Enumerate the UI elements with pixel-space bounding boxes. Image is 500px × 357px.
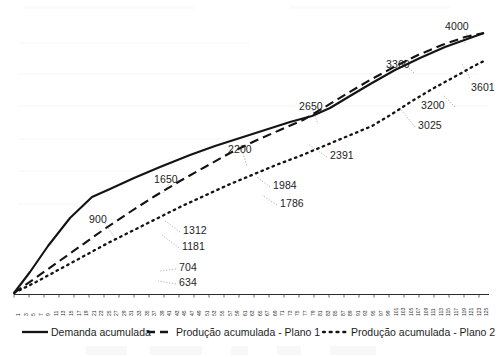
chart-legend: Demanda acumulada Produção acumulada - P… (0, 325, 500, 343)
x-tick-label: 25 (107, 310, 112, 316)
x-tick-label: 19 (84, 310, 89, 316)
x-tick-label: 91 (356, 310, 361, 316)
data-label-1786: 1786 (280, 198, 304, 209)
x-tick-label: 125 (484, 308, 489, 316)
x-tick-label: 47 (190, 310, 195, 316)
data-label-3025: 3025 (418, 120, 442, 131)
legend-label: Produção acumulada - Plano 2 (351, 327, 495, 338)
x-tick-label: 45 (182, 310, 187, 316)
x-tick-label: 15 (69, 310, 74, 316)
legend-label: Produção acumulada - Plano 1 (176, 327, 320, 338)
data-label-1984: 1984 (273, 180, 297, 191)
x-tick-label: 99 (386, 310, 391, 316)
x-tick-label: 37 (152, 310, 157, 316)
data-label-2200: 2200 (228, 144, 252, 155)
x-tick-label: 55 (220, 310, 225, 316)
x-tick-label: 121 (469, 308, 474, 316)
cropped-caption-remnant (86, 346, 376, 355)
series-producao-plano-1 (14, 33, 484, 293)
data-label-634: 634 (179, 277, 197, 288)
x-tick-label: 61 (243, 310, 248, 316)
x-tick-label: 93 (363, 310, 368, 316)
x-tick-label: 65 (258, 310, 263, 316)
x-tick-label: 23 (99, 310, 104, 316)
x-tick-label: 35 (145, 310, 150, 316)
x-tick-label: 73 (288, 310, 293, 316)
x-tick-label: 27 (114, 310, 119, 316)
x-tick-label: 31 (129, 310, 134, 316)
x-tick-label: 7 (39, 313, 44, 316)
x-tick-label: 123 (477, 308, 482, 316)
x-tick-label: 11 (54, 311, 59, 316)
x-tick-label: 63 (250, 310, 255, 316)
x-tick-label: 71 (280, 310, 285, 316)
data-label-704: 704 (179, 262, 197, 273)
plot-area (0, 0, 500, 357)
x-tick-label: 33 (137, 310, 142, 316)
x-tick-label: 117 (454, 308, 459, 316)
x-tick-label: 87 (341, 310, 346, 316)
series-producao-plano-2 (14, 61, 484, 293)
x-tick-label: 43 (175, 310, 180, 316)
x-tick-label: 59 (235, 310, 240, 316)
x-tick-label: 13 (61, 310, 66, 316)
legend-item-producao-plano-1[interactable]: Produção acumulada - Plano 1 (147, 327, 320, 338)
x-tick-label: 107 (416, 308, 421, 316)
x-tick-label: 21 (92, 310, 97, 316)
x-tick-label: 49 (197, 310, 202, 316)
legend-key-solid-icon (22, 327, 48, 337)
x-tick-label: 53 (212, 310, 217, 316)
x-tick-label: 119 (462, 308, 467, 316)
x-tick-label: 83 (326, 310, 331, 316)
x-tick-label: 103 (401, 308, 406, 316)
x-tick-label: 29 (122, 310, 127, 316)
legend-item-demanda-acumulada[interactable]: Demanda acumulada (22, 327, 151, 338)
x-tick-label: 69 (273, 310, 278, 316)
chart-container: 4000 3360 3601 3200 3025 2650 2391 2200 … (0, 0, 500, 357)
legend-label: Demanda acumulada (51, 327, 151, 338)
legend-key-dashed-icon (147, 327, 173, 337)
x-tick-label: 95 (371, 310, 376, 316)
x-tick-label: 51 (205, 310, 210, 316)
x-tick-label: 85 (333, 310, 338, 316)
x-tick-label: 115 (446, 308, 451, 316)
data-label-3360: 3360 (386, 59, 410, 70)
data-label-4000: 4000 (445, 21, 469, 32)
x-tick-label: 67 (265, 310, 270, 316)
x-tick-label: 5 (31, 313, 36, 316)
x-tick-label: 101 (394, 308, 399, 316)
x-tick-label: 1 (16, 313, 21, 316)
x-tick-label: 39 (160, 310, 165, 316)
data-label-900: 900 (89, 214, 107, 225)
data-label-2650: 2650 (299, 101, 323, 112)
data-label-1650: 1650 (154, 174, 178, 185)
x-tick-label: 77 (303, 310, 308, 316)
x-tick-label: 79 (311, 310, 316, 316)
data-label-2391: 2391 (330, 150, 354, 161)
x-tick-label: 9 (46, 313, 51, 316)
legend-item-producao-plano-2[interactable]: Produção acumulada - Plano 2 (322, 327, 495, 338)
x-tick-label: 97 (379, 310, 384, 316)
x-tick-label: 57 (228, 310, 233, 316)
data-label-3601: 3601 (471, 82, 495, 93)
x-tick-label: 113 (439, 308, 444, 316)
x-tick-label: 105 (409, 308, 414, 316)
x-tick-label: 109 (424, 308, 429, 316)
x-tick-label: 89 (348, 310, 353, 316)
x-tick-label: 3 (24, 313, 29, 316)
data-label-3200: 3200 (421, 100, 445, 111)
x-tick-label: 75 (295, 310, 300, 316)
data-label-1312: 1312 (183, 225, 207, 236)
series-demanda-acumulada (14, 33, 484, 293)
legend-key-dotted-icon (322, 327, 348, 337)
data-label-1181: 1181 (182, 241, 205, 252)
leader-lines (105, 33, 470, 284)
x-tick-label: 41 (167, 310, 172, 316)
x-tick-label: 81 (318, 310, 323, 316)
x-tick-label: 17 (77, 310, 82, 316)
x-tick-label: 111 (431, 308, 436, 316)
